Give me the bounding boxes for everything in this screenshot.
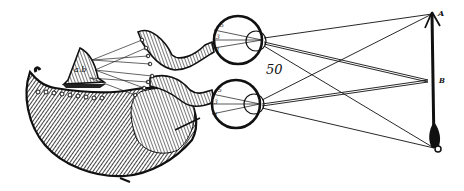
gland-label: a.b: [74, 65, 86, 74]
upper-eye-label-1: 1: [216, 46, 220, 53]
upper-eye: 5 3 1: [214, 16, 266, 64]
lower-eye: 5 3 1: [212, 80, 264, 128]
light-rays: [262, 14, 434, 148]
upper-eye-label-5: 5: [220, 21, 224, 28]
lower-eye-label-1: 1: [214, 111, 218, 118]
lower-eye-label-5: 5: [218, 86, 222, 93]
label-a: A: [437, 8, 444, 18]
optics-woodcut: a.b 5 3 1 5: [0, 0, 464, 191]
lower-eye-label-3: 3: [214, 98, 218, 105]
plate-number: 50: [266, 62, 283, 77]
upper-eye-label-3: 3: [216, 33, 220, 40]
label-b: B: [438, 76, 445, 85]
